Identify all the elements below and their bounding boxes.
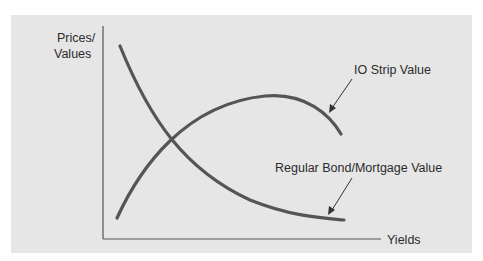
y-axis-label-line1: Prices/ — [57, 30, 95, 46]
regular-bond-curve — [120, 46, 344, 220]
x-axis-label: Yields — [387, 232, 421, 248]
io-strip-label: IO Strip Value — [354, 62, 431, 78]
io-strip-curve — [117, 96, 341, 218]
regular-bond-label: Regular Bond/Mortgage Value — [275, 160, 442, 176]
regular-bond-arrow-icon — [332, 178, 352, 210]
io-strip-arrow-icon — [332, 79, 352, 108]
y-axis-label-line2: Values — [54, 46, 91, 62]
io-strip-arrowhead-icon — [329, 104, 336, 113]
